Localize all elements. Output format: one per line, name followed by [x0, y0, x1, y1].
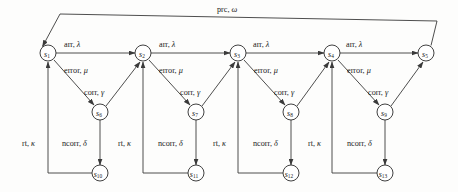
node-s13-sub: 13 — [382, 173, 388, 179]
state-diagram-svg: s1 s2 s3 s4 s5 s6 s7 s8 — [0, 0, 458, 192]
node-s5-sub: 5 — [425, 53, 428, 59]
edge-label-ncorr-4: ncorr, δ — [347, 139, 372, 148]
node-s10[interactable]: s10 — [92, 165, 108, 181]
edge-label-rt-2: rt, κ — [118, 139, 132, 148]
edge-label-error-3: error, μ — [254, 66, 278, 75]
node-s5[interactable]: s5 — [418, 45, 434, 61]
node-s3-sub: 3 — [237, 53, 240, 59]
node-s8[interactable]: s8 — [283, 104, 299, 120]
edge-label-arr-1: arr, λ — [64, 40, 81, 49]
node-s12[interactable]: s12 — [283, 165, 299, 181]
edge-label-ncorr-1: ncorr, δ — [62, 139, 87, 148]
node-s11[interactable]: s11 — [188, 165, 204, 181]
diagram-canvas: s1 s2 s3 s4 s5 s6 s7 s8 — [0, 0, 458, 192]
node-s6-sub: 6 — [99, 112, 102, 118]
node-s13[interactable]: s13 — [377, 165, 393, 181]
edge-label-arr-2: arr, λ — [159, 40, 176, 49]
edge-label-rt-1: rt, κ — [22, 139, 36, 148]
node-s12-sub: 12 — [288, 173, 294, 179]
edge-label-arr-4: arr, λ — [346, 40, 363, 49]
edge-label-error-1: error, μ — [64, 66, 88, 75]
node-s2[interactable]: s2 — [135, 45, 151, 61]
edge-label-ncorr-2: ncorr, δ — [158, 139, 183, 148]
edge-label-error-2: error, μ — [159, 66, 183, 75]
node-s10-sub: 10 — [97, 173, 103, 179]
node-s9-sub: 9 — [384, 112, 387, 118]
edge-label-corr-2: corr, γ — [180, 88, 201, 97]
edge-label-rt-4: rt, κ — [308, 139, 322, 148]
edge-label-ncorr-3: ncorr, δ — [253, 139, 278, 148]
edge-label-corr-4: corr, γ — [368, 88, 389, 97]
edge-s8-s4-corr — [297, 62, 329, 106]
node-s7-sub: 7 — [195, 112, 198, 118]
node-s6[interactable]: s6 — [92, 104, 108, 120]
edge-s5-s1-prc — [43, 14, 438, 47]
node-s3[interactable]: s3 — [230, 45, 246, 61]
node-s8-sub: 8 — [290, 112, 293, 118]
edge-s6-s2-corr — [106, 62, 140, 106]
node-s1-sub: 1 — [47, 53, 50, 59]
node-s11-sub: 11 — [193, 173, 198, 179]
edge-label-error-4: error, μ — [347, 66, 371, 75]
edge-s7-s3-corr — [202, 62, 235, 106]
node-s7[interactable]: s7 — [188, 104, 204, 120]
edge-label-rt-3: rt, κ — [213, 139, 227, 148]
node-s9[interactable]: s9 — [377, 104, 393, 120]
node-s4[interactable]: s4 — [324, 45, 340, 61]
edge-label-arr-3: arr, λ — [253, 40, 270, 49]
edge-label-corr-1: corr, γ — [84, 88, 105, 97]
node-s1[interactable]: s1 — [40, 45, 56, 61]
edge-label-prc: prc, ω — [217, 5, 238, 14]
node-s2-sub: 2 — [142, 53, 145, 59]
edge-label-corr-3: corr, γ — [274, 88, 295, 97]
node-s4-sub: 4 — [331, 53, 334, 59]
edge-s9-s5-corr — [391, 62, 423, 106]
